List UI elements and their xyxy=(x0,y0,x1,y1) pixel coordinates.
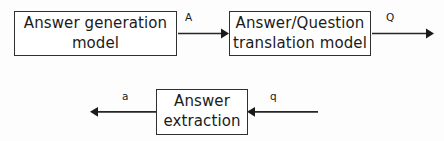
node-answer-generation-model: Answer generation model xyxy=(14,11,177,56)
node-answer-extraction: Answer extraction xyxy=(156,89,248,135)
edge-answer-generation-to-translation xyxy=(178,29,229,39)
edge-label-answer-lowercase-a: a xyxy=(122,91,128,102)
edge-question-into-extraction xyxy=(247,107,318,117)
edge-extraction-output-a xyxy=(90,107,156,117)
edge-label-answer-a: A xyxy=(185,12,192,23)
edge-translation-output-q xyxy=(372,29,434,39)
edge-label-question-lowercase-q: q xyxy=(270,91,277,102)
node-answer-question-translation-model: Answer/Question translation model xyxy=(229,11,371,56)
edge-label-question-Q: Q xyxy=(386,12,394,23)
flow-diagram: Answer generation model Answer/Question … xyxy=(0,0,444,141)
